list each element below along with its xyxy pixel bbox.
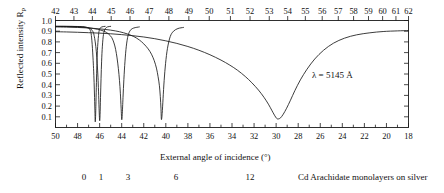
y-axis-tick-label: 0.5 bbox=[42, 70, 52, 79]
top-axis-tick-label: 55 bbox=[301, 7, 309, 16]
y-axis-tick-label: 0.4 bbox=[42, 81, 53, 90]
top-axis-tick-label: 44 bbox=[88, 7, 97, 16]
top-axis-tick-label: 57 bbox=[334, 7, 342, 16]
top-axis-tick-label: 51 bbox=[226, 7, 234, 16]
wavelength-annotation: λ = 5145 Å bbox=[312, 70, 353, 80]
top-axis-tick-label: 50 bbox=[205, 7, 213, 16]
top-axis-tick-label: 56 bbox=[318, 7, 326, 16]
top-axis-tick-label: 43 bbox=[70, 7, 78, 16]
x-axis-tick-label: 32 bbox=[250, 132, 258, 141]
caption-number-0: 0 bbox=[76, 172, 92, 182]
caption-number-1: 1 bbox=[92, 172, 110, 182]
x-axis-tick-label: 22 bbox=[360, 132, 368, 141]
y-axis-tick-label: 0.6 bbox=[42, 59, 52, 68]
top-axis-tick-label: 53 bbox=[265, 7, 273, 16]
x-axis-tick-label: 44 bbox=[118, 132, 127, 141]
curve-12-monolayers bbox=[56, 31, 409, 119]
y-axis-tick-label: 0.7 bbox=[42, 49, 52, 58]
top-axis-tick-label: 61 bbox=[392, 7, 400, 16]
x-axis-tick-label: 48 bbox=[73, 132, 81, 141]
top-axis-tick-label: 59 bbox=[364, 7, 372, 16]
caption-number-12: 12 bbox=[206, 172, 294, 182]
x-axis-tick-label: 28 bbox=[294, 132, 302, 141]
x-axis-label: External angle of incidence (°) bbox=[160, 152, 271, 162]
top-axis-tick-label: 48 bbox=[165, 7, 173, 16]
x-axis-tick-label: 34 bbox=[228, 132, 237, 141]
top-axis-tick-label: 52 bbox=[246, 7, 254, 16]
x-axis-tick-label: 18 bbox=[404, 132, 412, 141]
top-axis-tick-label: 49 bbox=[185, 7, 193, 16]
spr-reflectivity-chart: 5048464442403836343230282624222018424344… bbox=[0, 0, 444, 193]
x-axis-tick-label: 36 bbox=[206, 132, 214, 141]
caption-row: 013612Cd Arachidate monolayers on silver bbox=[76, 172, 427, 182]
x-axis-tick-label: 50 bbox=[51, 132, 59, 141]
top-axis-tick-label: 62 bbox=[404, 7, 412, 16]
figure-container: 5048464442403836343230282624222018424344… bbox=[0, 0, 444, 193]
y-axis-label-subscript: p bbox=[19, 8, 27, 12]
caption-label: Cd Arachidate monolayers on silver bbox=[294, 172, 427, 182]
top-axis-tick-label: 47 bbox=[145, 7, 153, 16]
caption-number-3: 3 bbox=[110, 172, 146, 182]
y-axis-tick-label: 0.8 bbox=[42, 38, 52, 47]
top-axis-tick-label: 58 bbox=[349, 7, 357, 16]
x-axis-tick-label: 46 bbox=[95, 132, 103, 141]
top-axis-tick-label: 45 bbox=[107, 7, 115, 16]
y-axis-tick-label: 0.3 bbox=[42, 91, 52, 100]
top-axis-tick-label: 46 bbox=[126, 7, 134, 16]
x-axis-tick-label: 24 bbox=[338, 132, 347, 141]
x-axis-tick-label: 40 bbox=[162, 132, 170, 141]
y-axis-tick-label: 0.2 bbox=[42, 102, 52, 111]
y-axis-tick-label: 1.0 bbox=[42, 17, 52, 26]
x-axis-tick-label: 30 bbox=[272, 132, 280, 141]
top-axis-tick-label: 60 bbox=[378, 7, 386, 16]
y-axis-tick-label: 0.9 bbox=[42, 27, 52, 36]
y-axis-label-text: Reflected intensity R bbox=[15, 11, 25, 89]
plot-frame bbox=[56, 21, 409, 128]
x-axis-tick-label: 26 bbox=[316, 132, 324, 141]
x-axis-tick-label: 38 bbox=[184, 132, 192, 141]
caption-number-6: 6 bbox=[146, 172, 206, 182]
x-axis-tick-label: 20 bbox=[382, 132, 390, 141]
x-axis-tick-label: 42 bbox=[140, 132, 148, 141]
y-axis-tick-label: 0.1 bbox=[42, 113, 52, 122]
top-axis-tick-label: 54 bbox=[284, 7, 293, 16]
top-axis-tick-label: 42 bbox=[51, 7, 59, 16]
curve-1-monolayers bbox=[56, 26, 111, 120]
y-axis-label: Reflected intensity Rp bbox=[15, 0, 28, 103]
